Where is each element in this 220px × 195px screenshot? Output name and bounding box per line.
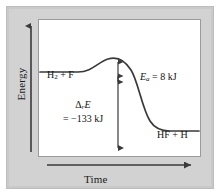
x-axis-title: Time (84, 173, 108, 185)
delta-variable: E (85, 99, 91, 110)
activation-energy-label: Ea = 8 kJ (140, 71, 177, 83)
diagram-vector-layer (0, 0, 220, 195)
reactant-formula-tail: + F (58, 69, 74, 80)
reaction-energy-label: ΔrE = −133 kJ (52, 99, 114, 125)
activation-energy-value: = 8 kJ (150, 71, 177, 82)
reaction-energy-symbol-line: ΔrE (52, 99, 114, 113)
reaction-energy-value: = −133 kJ (52, 113, 114, 125)
y-axis-title: Energy (15, 54, 27, 114)
energy-profile-figure: Energy Time H2 + F Ea = 8 kJ HF + H ΔrE … (0, 0, 220, 195)
reactant-level-label: H2 + F (47, 69, 74, 81)
product-level-label: HF + H (157, 129, 188, 140)
